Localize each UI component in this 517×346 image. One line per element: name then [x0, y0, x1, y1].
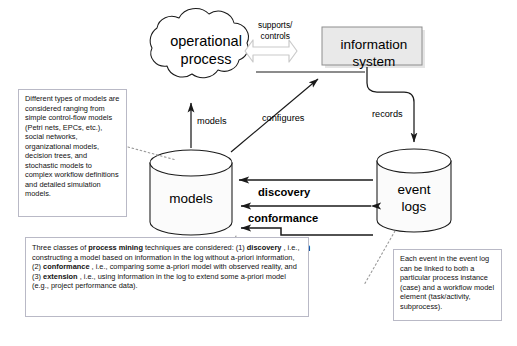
supports-controls-label: supports/ controls [258, 20, 292, 41]
edge-records-arrow [367, 67, 414, 142]
note-models-description: Different types of models are considered… [18, 89, 127, 217]
models-label: models [150, 191, 232, 206]
note-text-p2: techniques are considered: (1) [143, 243, 247, 252]
operational-process-label: operational process [151, 32, 261, 68]
discovery-edge-label: discovery [258, 186, 310, 198]
conformance-edge-label: conformance [248, 212, 318, 224]
note-term-extension: extension [43, 272, 78, 281]
event-logs-label: event logs [378, 181, 450, 215]
configures-edge-label: configures [262, 113, 304, 123]
edge-extension-arrow [241, 228, 373, 235]
note-text-p1: Three classes of [32, 243, 88, 252]
diagram-canvas: operational process information system m… [0, 0, 517, 346]
note-term-discovery: discovery [247, 243, 282, 252]
information-system-label: information system [325, 36, 423, 70]
note-process-mining-classes: Three classes of process mining techniqu… [25, 237, 309, 317]
records-edge-label: records [372, 109, 403, 119]
note-event-linkage: Each event in the event log can be linke… [393, 249, 502, 321]
note-term-process-mining: process mining [88, 243, 143, 252]
note-term-conformance: conformance [43, 262, 89, 271]
leader-right-note [364, 231, 395, 285]
models-edge-label: models [197, 116, 227, 126]
